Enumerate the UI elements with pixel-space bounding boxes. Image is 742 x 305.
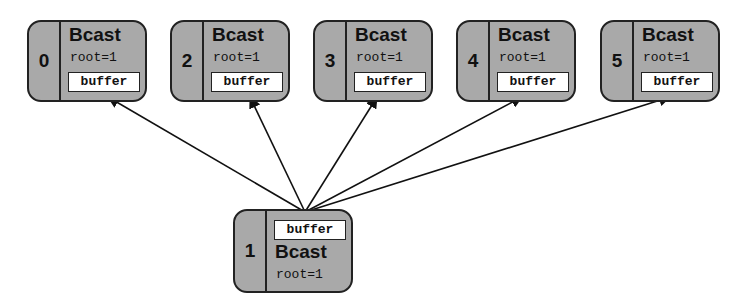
buffer-box: buffer [68,72,140,92]
rank-label: 4 [458,22,490,100]
rank-label: 2 [172,22,204,100]
broadcast-diagram: 0 Bcast root=1 buffer 2 Bcast root=1 buf… [0,0,742,305]
operation-label: Bcast [355,24,407,46]
buffer-box: buffer [497,72,569,92]
process-box-rank-5: 5 Bcast root=1 buffer [600,20,720,102]
rank-label: 1 [235,211,267,291]
arrow-1-to-0 [108,97,305,212]
root-argument: root=1 [276,267,323,282]
process-box-rank-3: 3 Bcast root=1 buffer [313,20,433,102]
buffer-box: buffer [641,72,713,92]
arrow-1-to-3 [305,97,377,212]
process-box-rank-1-root: 1 buffer Bcast root=1 [233,209,353,293]
rank-label: 0 [29,22,61,100]
operation-label: Bcast [275,241,327,263]
process-box-rank-2: 2 Bcast root=1 buffer [170,20,290,102]
operation-label: Bcast [212,24,264,46]
rank-label: 3 [315,22,347,100]
process-box-rank-0: 0 Bcast root=1 buffer [27,20,147,102]
rank-label: 5 [602,22,634,100]
root-argument: root=1 [643,50,690,65]
root-argument: root=1 [356,50,403,65]
arrow-1-to-2 [250,97,305,212]
root-argument: root=1 [70,50,117,65]
buffer-box: buffer [211,72,283,92]
process-box-rank-4: 4 Bcast root=1 buffer [456,20,576,102]
buffer-box: buffer [354,72,426,92]
root-argument: root=1 [499,50,546,65]
arrow-1-to-5 [305,97,670,212]
operation-label: Bcast [69,24,121,46]
buffer-box: buffer [274,220,346,240]
operation-label: Bcast [498,24,550,46]
root-argument: root=1 [213,50,260,65]
operation-label: Bcast [642,24,694,46]
